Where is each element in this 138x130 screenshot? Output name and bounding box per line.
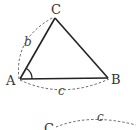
lower-vertex-label-c: C: [44, 121, 54, 130]
vertex-label-a: A: [5, 73, 16, 88]
vertex-label-c: C: [51, 2, 61, 17]
triangle-abc: [20, 18, 108, 79]
side-label-c: c: [58, 84, 65, 98]
angle-a-marker: [27, 69, 33, 80]
triangle-diagram: C A B b c C c: [0, 0, 138, 130]
vertex-label-b: B: [111, 72, 121, 87]
lower-arc-dashed: [56, 119, 136, 127]
side-label-b: b: [24, 35, 32, 49]
lower-side-label-c: c: [97, 110, 104, 124]
side-ab: [20, 78, 108, 79]
side-bc: [55, 18, 108, 78]
